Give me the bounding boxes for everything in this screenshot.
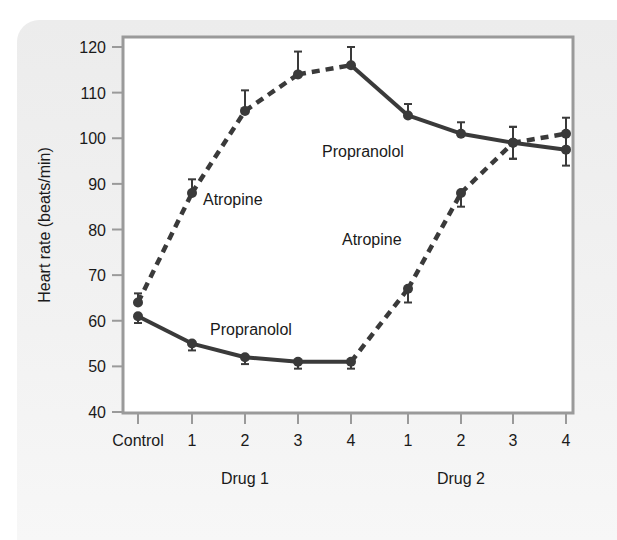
plot-area — [123, 37, 573, 413]
y-tick-label: 80 — [88, 222, 106, 239]
data-point — [187, 188, 197, 198]
y-tick-label: 120 — [79, 39, 106, 56]
x-tick-label: 2 — [457, 432, 466, 449]
data-point — [293, 357, 303, 367]
x-group-label-drug-1: Drug 1 — [221, 470, 269, 487]
data-point — [508, 138, 518, 148]
y-tick-label: 90 — [88, 176, 106, 193]
x-group-label-drug-2: Drug 2 — [437, 470, 485, 487]
data-point — [403, 284, 413, 294]
x-tick-label: Control — [112, 432, 164, 449]
annotation-propranolol-drug2: Propranolol — [322, 143, 404, 160]
x-axis: Control12341234 — [112, 413, 570, 449]
data-point — [346, 357, 356, 367]
data-point — [456, 188, 466, 198]
x-tick-label: 1 — [188, 432, 197, 449]
annotation-atropine-drug1: Atropine — [203, 191, 263, 208]
y-tick-label: 70 — [88, 267, 106, 284]
data-point — [133, 311, 143, 321]
y-axis-title: Heart rate (beats/min) — [36, 147, 53, 303]
data-point — [187, 339, 197, 349]
annotation-propranolol-drug1: Propranolol — [210, 321, 292, 338]
y-tick-label: 100 — [79, 130, 106, 147]
x-tick-label: 4 — [347, 432, 356, 449]
annotation-atropine-drug2: Atropine — [342, 231, 402, 248]
y-tick-label: 50 — [88, 358, 106, 375]
y-tick-label: 110 — [80, 85, 106, 102]
x-tick-label: 2 — [241, 432, 250, 449]
y-axis: 405060708090100110120 — [79, 39, 123, 421]
y-tick-label: 60 — [88, 313, 106, 330]
x-tick-label: 3 — [509, 432, 518, 449]
data-point — [293, 69, 303, 79]
data-point — [240, 106, 250, 116]
x-tick-label: 3 — [294, 432, 303, 449]
data-point — [346, 60, 356, 70]
x-tick-label: 4 — [562, 432, 571, 449]
data-point — [561, 145, 571, 155]
data-point — [403, 110, 413, 120]
data-point — [561, 129, 571, 139]
x-tick-label: 1 — [404, 432, 413, 449]
data-point — [133, 298, 143, 308]
y-tick-label: 40 — [88, 404, 106, 421]
data-point — [456, 129, 466, 139]
data-point — [240, 352, 250, 362]
